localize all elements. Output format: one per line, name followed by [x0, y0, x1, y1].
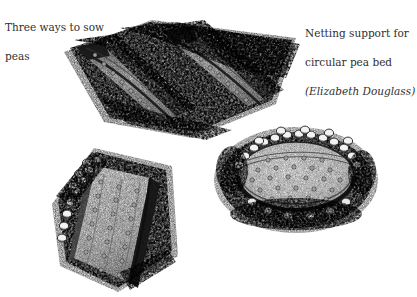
illustration-circular-pea-bed	[214, 126, 378, 233]
illustration-page: Three ways to sow peas Netting support f…	[0, 0, 417, 297]
caption-right-line-2: circular pea bed	[305, 55, 417, 70]
caption-right-line-1: Netting support for	[305, 26, 417, 41]
illustration-wide-flat-trench	[52, 148, 178, 292]
caption-left-line-1: Three ways to sow	[5, 20, 155, 35]
three-ways-to-sow-peas-caption: Three ways to sow peas	[5, 5, 155, 78]
caption-right-attribution: (Elizabeth Douglass)	[305, 84, 417, 99]
netting-support-caption: Netting support for circular pea bed (El…	[305, 11, 417, 113]
caption-left-line-2: peas	[5, 49, 155, 64]
